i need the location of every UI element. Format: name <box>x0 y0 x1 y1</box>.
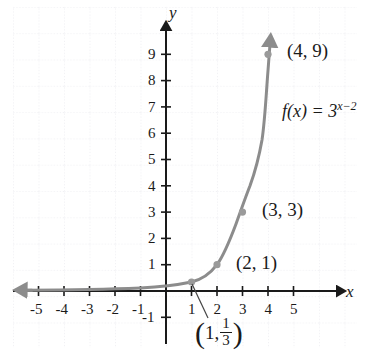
one-third-fraction: 1 3 <box>220 316 232 349</box>
x-tick-label-2: 2 <box>214 302 222 317</box>
function-equation-exponent: x−2 <box>337 99 356 113</box>
data-point-3-3 <box>239 209 246 216</box>
point-label-3-3: (3, 3) <box>262 200 303 219</box>
exponential-function-graph-figure: -5 -4 -3 -2 -1 1 2 3 4 5 9 8 7 6 5 4 3 2… <box>0 0 383 354</box>
right-paren: ) <box>233 320 243 346</box>
y-tick-label-3: 3 <box>148 205 156 220</box>
y-tick-label-9: 9 <box>148 47 156 62</box>
y-tick-label-2: 2 <box>148 231 156 246</box>
y-tick-label-6: 6 <box>148 126 156 141</box>
x-tick-label-1: 1 <box>188 302 196 317</box>
left-paren: ( <box>195 320 205 346</box>
y-tick-label-7: 7 <box>148 100 156 115</box>
x-tick-label-neg3: -3 <box>81 302 94 317</box>
x-tick-label-4: 4 <box>265 302 273 317</box>
y-tick-label-1: 1 <box>148 257 156 272</box>
x-tick-label-5: 5 <box>290 302 298 317</box>
x-tick-label-neg2: -2 <box>107 302 120 317</box>
y-tick-label-5: 5 <box>148 152 156 167</box>
point-label-1-one-third: ( 1, 1 3 ) <box>195 316 243 349</box>
data-point-4-9 <box>264 51 271 58</box>
x-tick-label-3: 3 <box>239 302 247 317</box>
x-tick-label-neg5: -5 <box>30 302 43 317</box>
fraction-x-part: 1, <box>205 323 219 342</box>
y-tick-label-4: 4 <box>148 179 156 194</box>
x-axis-label: x <box>346 283 354 300</box>
x-tick-label-neg4: -4 <box>56 302 69 317</box>
y-tick-label-8: 8 <box>148 73 156 88</box>
point-label-4-9: (4, 9) <box>287 41 328 60</box>
function-equation-label: f(x) = 3x−2 <box>282 100 357 120</box>
fraction-denominator: 3 <box>220 333 232 349</box>
fraction-numerator: 1 <box>220 316 232 332</box>
data-point-2-1 <box>213 261 220 268</box>
y-axis-label: y <box>169 4 177 21</box>
data-point-1-third <box>188 278 195 285</box>
point-label-2-1: (2, 1) <box>236 253 277 272</box>
function-equation-base: f(x) = 3 <box>282 101 337 121</box>
y-tick-label-neg1: -1 <box>142 310 155 325</box>
